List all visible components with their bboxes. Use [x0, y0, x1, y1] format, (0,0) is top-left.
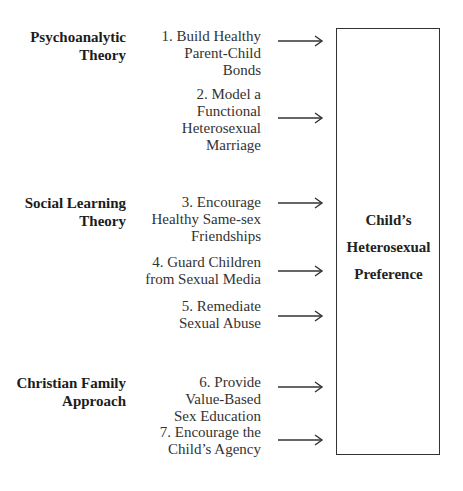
item-line: 6. Provide [174, 374, 261, 391]
right-arrow-icon [277, 381, 324, 393]
category-label-line: Approach [16, 392, 126, 410]
category-label-line: Theory [30, 46, 126, 64]
category-social-learning-theory: Social Learning Theory [25, 194, 126, 230]
item-7-child-agency: 7. Encourage the Child’s Agency [160, 424, 261, 458]
item-line: 3. Encourage [151, 194, 261, 211]
right-arrow-icon [277, 112, 324, 124]
item-line: 5. Remediate [179, 298, 261, 315]
outcome-line: Child’s [336, 207, 441, 234]
category-christian-family-approach: Christian Family Approach [16, 374, 126, 410]
item-line: Heterosexual [182, 120, 261, 137]
item-line: Functional [182, 103, 261, 120]
outcome-label: Child’s Heterosexual Preference [336, 207, 441, 288]
item-line: 2. Model a [182, 86, 261, 103]
item-line: 7. Encourage the [160, 424, 261, 441]
item-line: Sexual Abuse [179, 315, 261, 332]
item-line: 1. Build Healthy [161, 28, 261, 45]
item-line: Sex Education [174, 408, 261, 425]
category-label-line: Social Learning [25, 194, 126, 212]
right-arrow-icon [277, 197, 324, 209]
item-5-remediate-abuse: 5. Remediate Sexual Abuse [179, 298, 261, 332]
item-line: 4. Guard Children [145, 254, 261, 271]
item-2-model-marriage: 2. Model a Functional Heterosexual Marri… [182, 86, 261, 154]
outcome-line: Heterosexual [336, 234, 441, 261]
category-label-line: Theory [25, 212, 126, 230]
item-line: Value-Based [174, 391, 261, 408]
right-arrow-icon [277, 35, 324, 47]
item-line: Healthy Same-sex [151, 211, 261, 228]
item-6-sex-education: 6. Provide Value-Based Sex Education [174, 374, 261, 425]
item-line: Parent-Child [161, 45, 261, 62]
right-arrow-icon [277, 265, 324, 277]
category-label-line: Psychoanalytic [30, 28, 126, 46]
item-line: from Sexual Media [145, 271, 261, 288]
item-line: Marriage [182, 137, 261, 154]
category-label-line: Christian Family [16, 374, 126, 392]
right-arrow-icon [277, 310, 324, 322]
right-arrow-icon [277, 434, 324, 446]
category-psychoanalytic-theory: Psychoanalytic Theory [30, 28, 126, 64]
item-line: Friendships [151, 228, 261, 245]
item-line: Child’s Agency [160, 441, 261, 458]
item-1-build-healthy-bonds: 1. Build Healthy Parent-Child Bonds [161, 28, 261, 79]
outcome-line: Preference [336, 261, 441, 288]
item-line: Bonds [161, 62, 261, 79]
item-4-guard-from-media: 4. Guard Children from Sexual Media [145, 254, 261, 288]
item-3-same-sex-friendships: 3. Encourage Healthy Same-sex Friendship… [151, 194, 261, 245]
